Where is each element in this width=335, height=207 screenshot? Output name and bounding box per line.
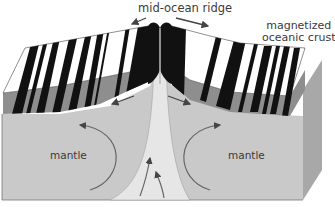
crust-label: magnetized oceanic crust	[262, 20, 335, 44]
ridge-label: mid-ocean ridge	[138, 2, 232, 14]
mantle-label-left: mantle	[50, 149, 87, 161]
crust-label-line2: oceanic crust	[262, 32, 335, 44]
mantle-label-right: mantle	[228, 149, 265, 161]
